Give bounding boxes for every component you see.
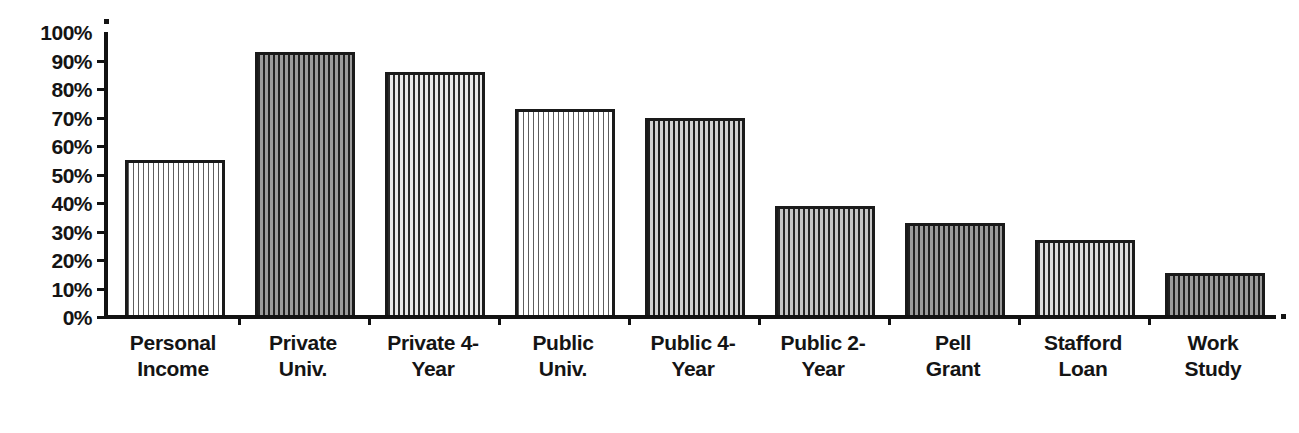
bar [1165,273,1265,319]
category-label-line-1: Public 2- [758,330,888,356]
category-label-line-1: Stafford [1018,330,1148,356]
x-axis-tick-mark [888,318,891,325]
x-axis-category-label: PrivateUniv. [238,330,368,382]
category-label-line-1: Pell [888,330,1018,356]
x-axis-category-label: Public 2-Year [758,330,888,382]
category-label-line-2: Year [758,356,888,382]
category-label-line-2: Income [108,356,238,382]
x-axis-category-label: WorkStudy [1148,330,1278,382]
bar [905,223,1005,319]
x-axis-tick-mark [368,318,371,325]
x-axis-category-label: PersonalIncome [108,330,238,382]
category-label-line-1: Personal [108,330,238,356]
x-axis-tick-mark [1018,318,1021,325]
x-axis-category-label: StaffordLoan [1018,330,1148,382]
x-axis-tick-mark [238,318,241,325]
category-label-line-2: Univ. [498,356,628,382]
x-axis-label-group: PersonalIncomePrivateUniv.Private 4-Year… [0,330,1299,430]
category-label-line-2: Study [1148,356,1278,382]
bar [255,52,355,319]
x-axis-tick-mark [758,318,761,325]
category-label-line-1: Public 4- [628,330,758,356]
x-axis-tick-mark [628,318,631,325]
category-label-line-2: Univ. [238,356,368,382]
plot-area [0,0,1299,320]
x-axis-line [104,315,1276,319]
x-axis-end-cap-marker [1281,314,1286,319]
bar [1035,240,1135,319]
bar [645,118,745,319]
category-label-line-2: Grant [888,356,1018,382]
x-axis-tick-mark [498,318,501,325]
category-label-line-2: Loan [1018,356,1148,382]
category-label-line-2: Year [368,356,498,382]
bar [125,160,225,319]
category-label-line-1: Private 4- [368,330,498,356]
bar [775,206,875,319]
category-label-line-1: Public [498,330,628,356]
x-axis-category-label: Private 4-Year [368,330,498,382]
category-label-line-2: Year [628,356,758,382]
category-label-line-1: Work [1148,330,1278,356]
x-axis-category-label: PellGrant [888,330,1018,382]
x-axis-tick-mark [1148,318,1151,325]
bar-chart: 100%90%80%70%60%50%40%30%20%10%0% Person… [0,0,1299,433]
x-axis-category-label: Public 4-Year [628,330,758,382]
category-label-line-1: Private [238,330,368,356]
bar [385,72,485,319]
x-axis-category-label: PublicUniv. [498,330,628,382]
bar [515,109,615,319]
